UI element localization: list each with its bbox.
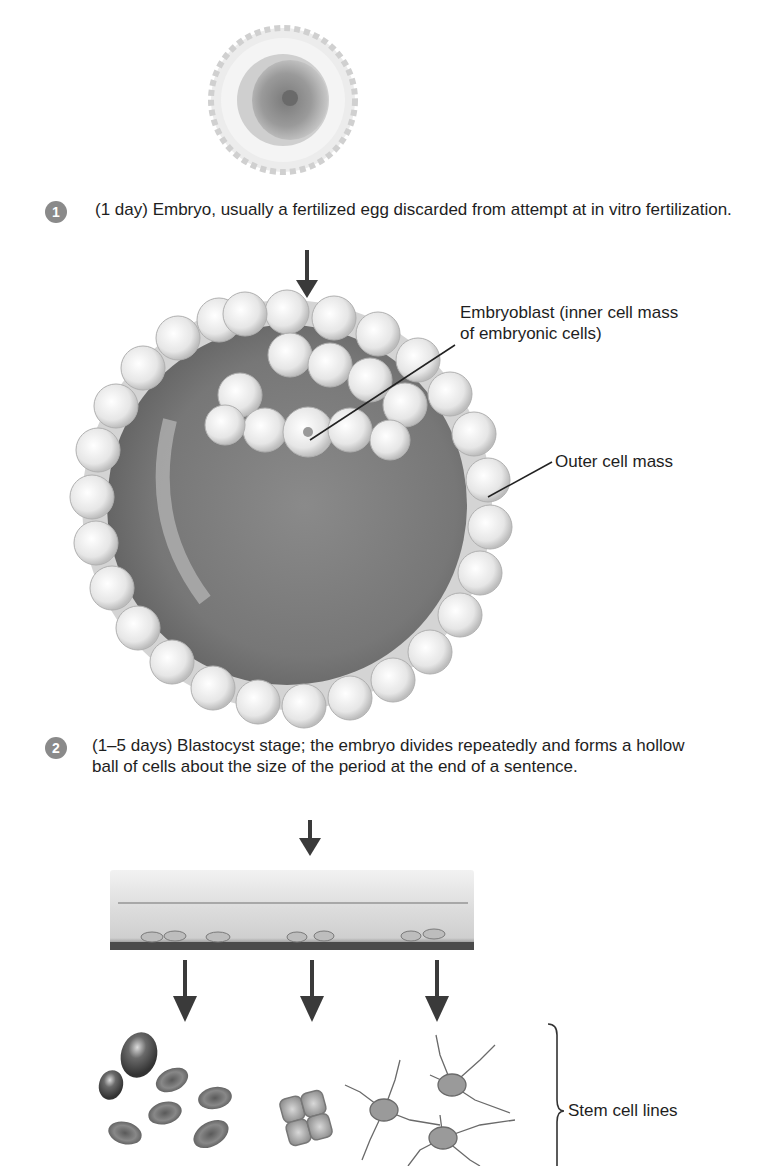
step-1-text: (1 day) Embryo, usually a fertilized egg… [95,199,735,220]
brace-icon [548,1024,564,1166]
nerve-cells-illustration [345,1035,515,1166]
step-1-badge: 1 [45,201,67,223]
step-2-text: (1–5 days) Blastocyst stage; the embryo … [92,735,692,777]
embryoblast-label: Embryoblast (inner cell mass of embryoni… [460,302,690,344]
stem-cell-lines-label: Stem cell lines [568,1100,678,1121]
arrow-down-nerve [425,960,449,1022]
fertilized-egg-illustration [211,28,355,172]
arrow-down-2 [299,820,321,856]
arrow-down-blood [173,960,197,1022]
arrow-down-1 [296,250,318,298]
culture-dish-illustration [110,870,474,950]
outer-cell-mass-label: Outer cell mass [555,451,673,472]
step-2-badge: 2 [45,737,67,759]
diagram-graphics [0,0,759,1166]
blood-cells-illustration [96,1028,234,1154]
epithelial-cells-illustration [279,1089,334,1147]
arrow-down-epithelial [300,960,324,1022]
blastocyst-illustration [70,290,512,728]
